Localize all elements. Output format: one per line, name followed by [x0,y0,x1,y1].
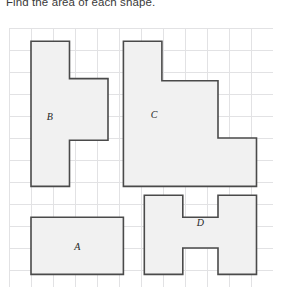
grid-worksheet: BCAD [9,28,273,287]
shape-c-label: C [151,109,158,120]
shape-d-outline [144,195,256,274]
shape-b-outline [31,41,108,186]
shapes-canvas: BCAD [9,28,273,287]
shapes-layer: BCAD [31,41,257,274]
shape-b-label: B [47,111,53,122]
shape-a[interactable]: A [31,217,123,274]
shape-c[interactable]: C [123,41,256,186]
shape-a-label: A [73,241,81,252]
shape-c-outline [123,41,256,186]
shape-d[interactable]: D [144,195,256,274]
page-title: Find the area of each shape. [6,0,155,8]
shape-d-label: D [196,217,205,228]
shape-b[interactable]: B [31,41,108,186]
